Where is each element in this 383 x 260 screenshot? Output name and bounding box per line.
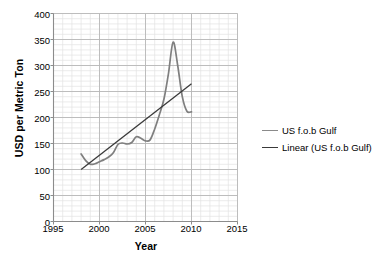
x-tick-label: 1995 bbox=[33, 224, 73, 234]
legend-item-trend: Linear (US f.o.b Gulf) bbox=[262, 139, 382, 156]
x-tick-label: 2015 bbox=[217, 224, 257, 234]
legend-item-series: US f.o.b Gulf bbox=[262, 122, 382, 139]
legend-swatch-trend bbox=[262, 147, 278, 148]
legend-label-trend: Linear (US f.o.b Gulf) bbox=[282, 142, 372, 153]
x-tick-label: 2010 bbox=[171, 224, 211, 234]
chart-legend: US f.o.b Gulf Linear (US f.o.b Gulf) bbox=[262, 122, 382, 156]
x-tick-label: 2000 bbox=[79, 224, 119, 234]
x-axis-title: Year bbox=[53, 240, 239, 252]
legend-label-series: US f.o.b Gulf bbox=[282, 125, 336, 136]
legend-swatch-series bbox=[262, 130, 278, 131]
chart-figure: USD per Metric Ton 400 350 300 250 200 1… bbox=[0, 0, 383, 260]
x-tick-label: 2005 bbox=[125, 224, 165, 234]
